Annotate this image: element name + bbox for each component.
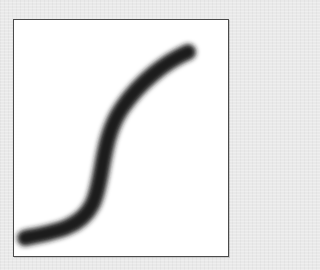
s-curve-stroke [0, 0, 248, 270]
sigmoid-brush-stroke [25, 52, 188, 238]
